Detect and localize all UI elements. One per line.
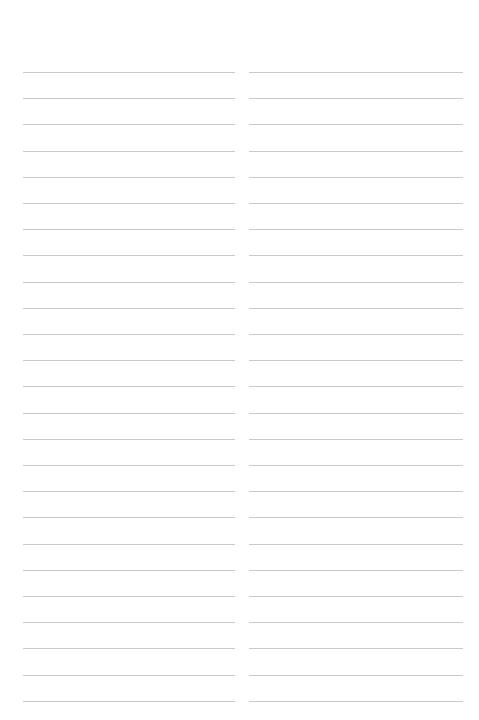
ruled-line xyxy=(23,255,235,256)
ruled-line xyxy=(23,282,235,283)
ruled-line xyxy=(249,570,463,571)
ruled-line xyxy=(23,596,235,597)
ruled-line xyxy=(249,98,463,99)
ruled-line xyxy=(23,701,235,702)
ruled-line xyxy=(23,517,235,518)
ruled-line xyxy=(23,570,235,571)
ruled-line xyxy=(23,229,235,230)
ruled-line xyxy=(23,648,235,649)
ruled-line xyxy=(23,151,235,152)
ruled-line xyxy=(23,413,235,414)
ruled-line xyxy=(249,701,463,702)
ruled-line xyxy=(23,203,235,204)
ruled-line xyxy=(249,72,463,73)
ruled-line xyxy=(249,177,463,178)
ruled-line xyxy=(249,648,463,649)
ruled-line xyxy=(249,360,463,361)
ruled-line xyxy=(249,622,463,623)
ruled-line xyxy=(23,72,235,73)
ruled-line xyxy=(23,308,235,309)
left-column xyxy=(23,0,235,720)
ruled-line xyxy=(23,622,235,623)
ruled-line xyxy=(249,282,463,283)
ruled-line xyxy=(249,386,463,387)
ruled-line xyxy=(23,439,235,440)
ruled-line xyxy=(249,544,463,545)
ruled-line xyxy=(249,308,463,309)
ruled-line xyxy=(23,177,235,178)
ruled-line xyxy=(23,360,235,361)
ruled-line xyxy=(249,203,463,204)
ruled-line xyxy=(23,675,235,676)
ruled-line xyxy=(249,596,463,597)
lined-page xyxy=(0,0,479,720)
ruled-line xyxy=(23,386,235,387)
ruled-line xyxy=(249,675,463,676)
ruled-line xyxy=(23,465,235,466)
ruled-line xyxy=(249,413,463,414)
ruled-line xyxy=(23,124,235,125)
ruled-line xyxy=(249,334,463,335)
ruled-line xyxy=(23,491,235,492)
ruled-line xyxy=(23,98,235,99)
ruled-line xyxy=(249,124,463,125)
ruled-line xyxy=(249,517,463,518)
ruled-line xyxy=(249,465,463,466)
ruled-line xyxy=(23,334,235,335)
ruled-line xyxy=(249,229,463,230)
ruled-line xyxy=(249,151,463,152)
ruled-line xyxy=(249,491,463,492)
right-column xyxy=(249,0,463,720)
ruled-line xyxy=(249,255,463,256)
ruled-line xyxy=(249,439,463,440)
ruled-line xyxy=(23,544,235,545)
